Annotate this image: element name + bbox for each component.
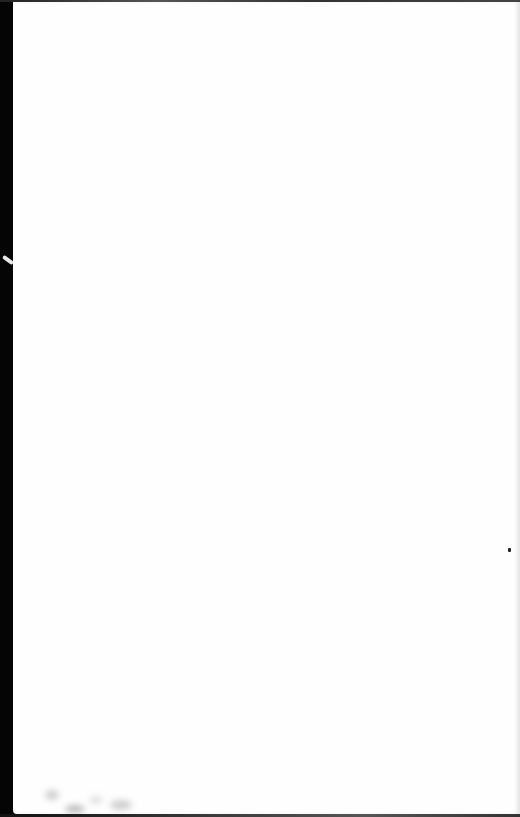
- smudge-mark: [110, 800, 132, 810]
- scanned-document: [0, 0, 520, 817]
- smudge-mark: [45, 790, 59, 800]
- page-right-shadow: [514, 0, 520, 817]
- dust-speck: [508, 548, 511, 552]
- smudge-mark: [65, 805, 85, 813]
- blank-page: [13, 2, 520, 814]
- smudge-mark: [90, 796, 102, 804]
- scan-left-border: [0, 0, 13, 817]
